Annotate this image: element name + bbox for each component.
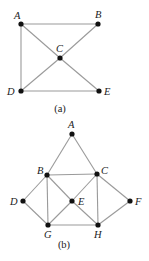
edge-B-C	[60, 24, 98, 58]
node-B	[44, 172, 49, 177]
edge-D-G	[23, 201, 48, 225]
edge-B-E	[47, 175, 72, 201]
node-A	[18, 21, 23, 26]
node-E	[96, 88, 101, 93]
node-label-H: H	[93, 229, 103, 240]
edge-C-E	[72, 174, 97, 201]
graph-figure-b: ABCDEFGH(b)	[9, 119, 142, 251]
edge-A-C	[21, 24, 60, 58]
edge-E-G	[48, 201, 72, 225]
graph-figure-a: ABCDE(a)	[6, 9, 111, 115]
node-D	[20, 198, 25, 203]
node-label-A: A	[13, 10, 21, 21]
node-E	[69, 198, 74, 203]
edge-B-C	[47, 174, 97, 175]
node-label-E: E	[77, 196, 85, 207]
node-label-D: D	[6, 86, 15, 97]
edge-E-H	[72, 201, 98, 225]
figure-caption: (b)	[58, 239, 71, 251]
node-label-G: G	[44, 229, 52, 240]
node-F	[127, 198, 132, 203]
edge-A-B	[47, 134, 72, 175]
node-label-C: C	[56, 43, 64, 54]
edge-C-D	[21, 58, 60, 91]
node-A	[69, 131, 74, 136]
node-G	[45, 222, 50, 227]
edge-B-D	[23, 175, 47, 201]
node-label-A: A	[67, 119, 75, 130]
node-D	[18, 88, 23, 93]
figure-caption: (a)	[54, 103, 66, 115]
node-H	[95, 222, 100, 227]
node-C	[57, 55, 62, 60]
edge-C-F	[97, 174, 130, 201]
graph-diagram: ABCDE(a)ABCDEFGH(b)	[0, 0, 149, 261]
edge-A-C	[72, 134, 97, 174]
node-label-B: B	[95, 9, 102, 20]
edge-B-G	[47, 175, 48, 225]
node-label-C: C	[101, 165, 109, 176]
edge-C-E	[60, 58, 99, 91]
node-label-B: B	[37, 165, 44, 176]
edge-H-F	[98, 201, 130, 225]
node-B	[95, 21, 100, 26]
node-C	[94, 171, 99, 176]
node-label-E: E	[103, 86, 111, 97]
node-label-F: F	[134, 196, 142, 207]
edge-C-H	[97, 174, 98, 225]
node-label-D: D	[9, 196, 18, 207]
